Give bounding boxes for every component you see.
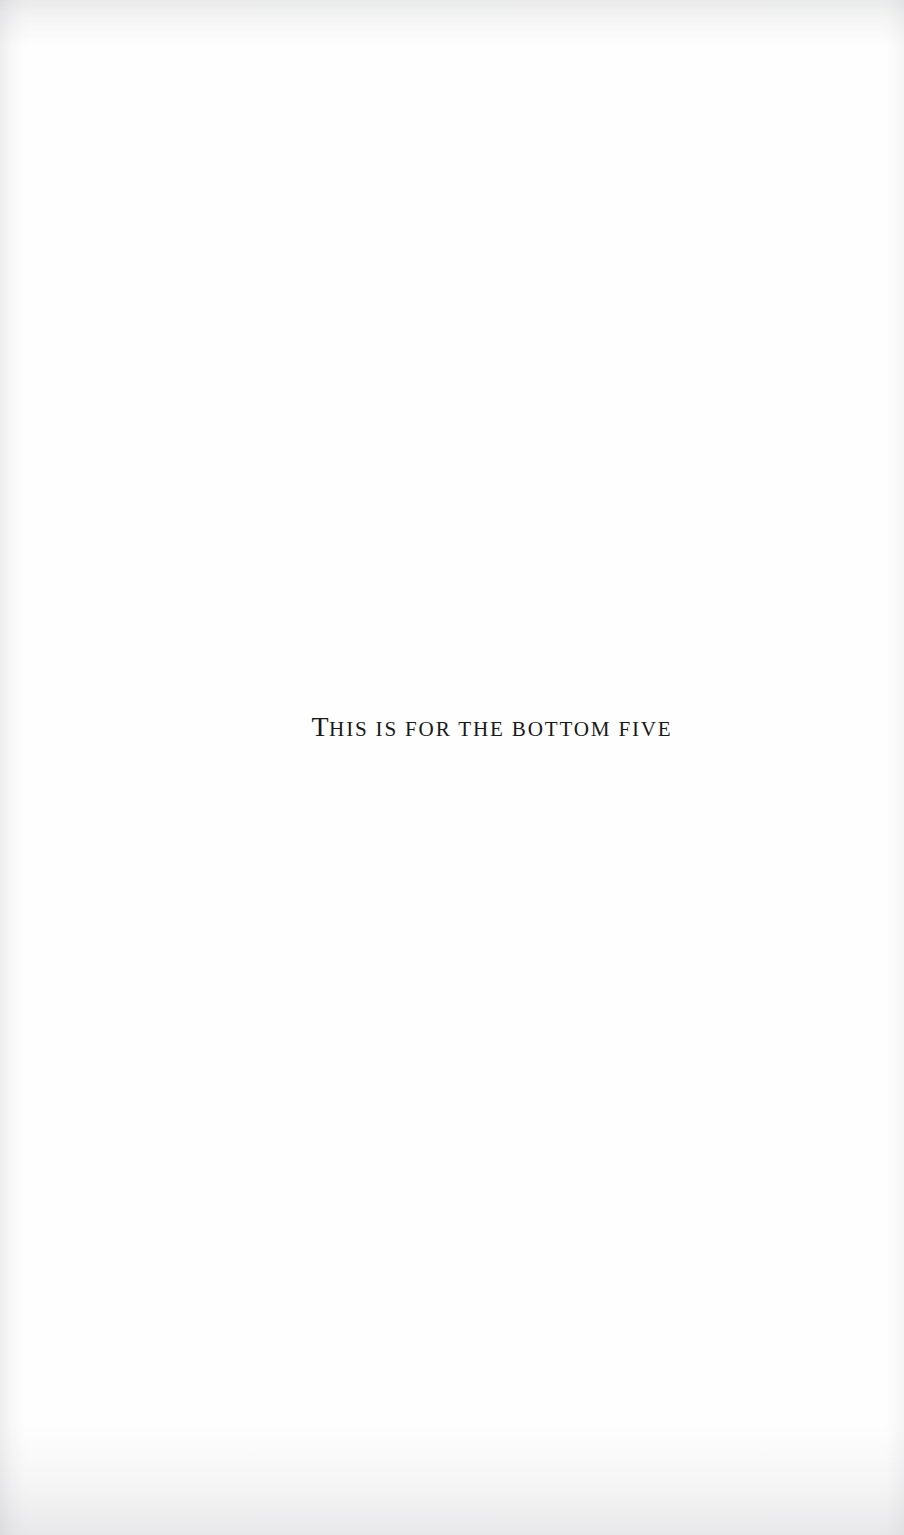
scan-edge-shading-bottom <box>0 1425 904 1535</box>
dedication-remainder: HIS IS FOR THE BOTTOM FIVE <box>329 717 672 741</box>
scan-edge-shading-left <box>0 0 26 1535</box>
scan-edge-shading-right <box>886 0 904 1535</box>
dedication-block: THIS IS FOR THE BOTTOM FIVE <box>0 704 904 752</box>
dedication-lead-capital: T <box>311 711 329 742</box>
dedication-text: THIS IS FOR THE BOTTOM FIVE <box>311 704 672 752</box>
scan-edge-shading-top <box>0 0 904 46</box>
scanned-page: THIS IS FOR THE BOTTOM FIVE <box>0 0 904 1535</box>
